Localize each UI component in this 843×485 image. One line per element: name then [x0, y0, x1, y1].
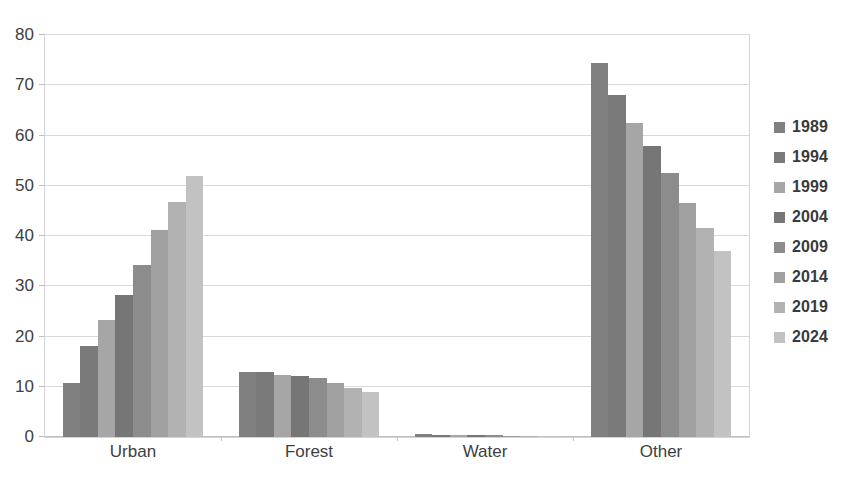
bars-layer: [45, 35, 749, 437]
legend-label: 2014: [792, 269, 828, 285]
bar-other-2004: [643, 146, 661, 437]
bar-other-2019: [696, 228, 714, 437]
y-tick-label: 10: [15, 377, 34, 394]
x-label-urban: Urban: [45, 441, 221, 463]
legend-label: 1999: [792, 179, 828, 195]
bar-other-1999: [626, 123, 644, 437]
y-tick-label: 70: [15, 76, 34, 93]
legend-swatch-icon: [774, 332, 785, 343]
legend-item-2019[interactable]: 2019: [774, 292, 840, 322]
x-tick-mark: [397, 437, 398, 441]
bar-group-other: [591, 35, 732, 437]
bar-other-1994: [608, 95, 626, 437]
legend-swatch-icon: [774, 152, 785, 163]
y-tick-label: 80: [15, 26, 34, 43]
x-tick-mark: [221, 437, 222, 441]
legend-swatch-icon: [774, 272, 785, 283]
bar-forest-2019: [344, 388, 362, 437]
legend-label: 2009: [792, 239, 828, 255]
bar-urban-2004: [115, 295, 133, 437]
legend-swatch-icon: [774, 242, 785, 253]
bar-group-forest: [239, 35, 380, 437]
y-axis: 01020304050607080: [0, 34, 44, 438]
legend-item-1989[interactable]: 1989: [774, 112, 840, 142]
y-tick-label: 30: [15, 277, 34, 294]
bar-urban-1989: [63, 383, 81, 437]
legend-swatch-icon: [774, 122, 785, 133]
bar-forest-2024: [362, 392, 380, 437]
legend-swatch-icon: [774, 212, 785, 223]
legend-item-2009[interactable]: 2009: [774, 232, 840, 262]
legend-label: 1989: [792, 119, 828, 135]
legend-item-1999[interactable]: 1999: [774, 172, 840, 202]
bar-water-1994: [432, 435, 450, 438]
bar-water-1989: [415, 434, 433, 437]
bar-water-2019: [520, 436, 538, 438]
y-tick-label: 50: [15, 176, 34, 193]
x-label-water: Water: [397, 441, 573, 463]
bar-water-2014: [503, 436, 521, 438]
bar-urban-2019: [168, 202, 186, 437]
y-tick-label: 40: [15, 227, 34, 244]
bar-water-2024: [538, 436, 556, 437]
y-tick-label: 20: [15, 327, 34, 344]
bar-other-1989: [591, 63, 609, 437]
x-tick-mark: [573, 437, 574, 441]
bar-forest-1999: [274, 375, 292, 437]
bar-urban-1994: [80, 346, 98, 437]
bar-forest-2004: [291, 376, 309, 437]
legend-label: 2024: [792, 329, 828, 345]
legend-swatch-icon: [774, 182, 785, 193]
bar-water-2004: [467, 435, 485, 437]
legend-label: 2004: [792, 209, 828, 225]
bar-other-2024: [714, 251, 732, 437]
legend-item-2014[interactable]: 2014: [774, 262, 840, 292]
bar-group-urban: [63, 35, 204, 437]
bar-urban-2024: [186, 176, 204, 437]
bar-urban-2014: [151, 230, 169, 437]
bar-forest-1989: [239, 372, 257, 437]
x-label-other: Other: [573, 441, 749, 463]
bar-urban-1999: [98, 320, 116, 437]
bar-other-2014: [679, 203, 697, 437]
bar-water-2009: [485, 435, 503, 437]
bar-chart: 01020304050607080 UrbanForestWaterOther …: [0, 0, 843, 485]
legend: 19891994199920042009201420192024: [774, 112, 840, 352]
legend-label: 1994: [792, 149, 828, 165]
legend-item-2004[interactable]: 2004: [774, 202, 840, 232]
y-tick-label: 60: [15, 126, 34, 143]
bar-other-2009: [661, 173, 679, 437]
bar-group-water: [415, 35, 556, 437]
legend-item-1994[interactable]: 1994: [774, 142, 840, 172]
bar-forest-1994: [256, 372, 274, 437]
y-tick-label: 0: [25, 428, 34, 445]
bar-urban-2009: [133, 265, 151, 437]
bar-forest-2009: [309, 378, 327, 437]
legend-label: 2019: [792, 299, 828, 315]
legend-swatch-icon: [774, 302, 785, 313]
bar-forest-2014: [327, 383, 345, 437]
x-axis-labels: UrbanForestWaterOther: [45, 441, 749, 473]
bar-water-1999: [450, 435, 468, 438]
x-label-forest: Forest: [221, 441, 397, 463]
legend-item-2024[interactable]: 2024: [774, 322, 840, 352]
